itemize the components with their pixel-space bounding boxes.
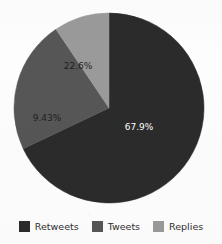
pie-slice-label-replies: 9.43% <box>33 113 62 123</box>
legend-item-tweets[interactable]: Tweets <box>92 221 140 232</box>
legend-swatch-retweets <box>19 221 30 232</box>
legend-swatch-replies <box>153 221 164 232</box>
pie-slice-label-tweets: 22.6% <box>64 61 93 71</box>
legend-label: Retweets <box>35 221 79 232</box>
legend-swatch-tweets <box>92 221 103 232</box>
chart-legend: RetweetsTweetsReplies <box>0 216 222 236</box>
pie-chart-figure: 67.9%22.6%9.43% RetweetsTweetsReplies <box>0 0 222 244</box>
legend-item-replies[interactable]: Replies <box>153 221 203 232</box>
pie-svg: 67.9%22.6%9.43% <box>0 0 222 212</box>
legend-label: Replies <box>169 221 203 232</box>
pie-plot-area: 67.9%22.6%9.43% <box>0 0 222 212</box>
legend-label: Tweets <box>108 221 140 232</box>
legend-item-retweets[interactable]: Retweets <box>19 221 79 232</box>
pie-slice-group <box>14 13 204 203</box>
pie-slice-label-retweets: 67.9% <box>125 122 154 132</box>
